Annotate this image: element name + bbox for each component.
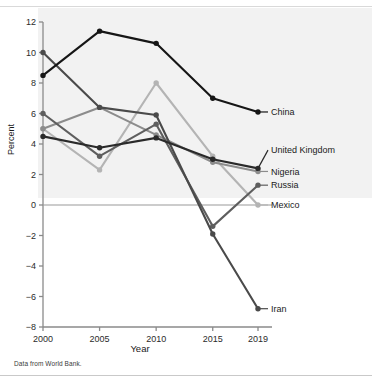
series-label-russia: Russia [258, 180, 299, 190]
y-tick-label: 8 [31, 78, 36, 88]
y-tick-label: −8 [26, 322, 36, 332]
series-label-iran: Iran [258, 304, 287, 314]
source-note: Data from World Bank. [14, 360, 82, 367]
y-tick-label: 2 [31, 170, 36, 180]
y-tick-label: −4 [26, 261, 36, 271]
y-axis-title: Percent [6, 124, 16, 155]
series-label-text: Iran [271, 304, 287, 314]
series-label-united-kingdom: United Kingdom [258, 145, 335, 168]
series-label-text: United Kingdom [271, 145, 335, 155]
tick-labels-layer: −8−6−4−202468101220002005201020152019 [26, 17, 268, 344]
series-mexico [40, 80, 260, 207]
series-label-mexico: Mexico [258, 200, 300, 210]
chart-svg: MexicoNigeriaRussiaIranUnited KingdomChi… [0, 0, 372, 382]
axes-layer [39, 22, 272, 331]
series-iran [40, 50, 260, 312]
series-label-text: Russia [271, 180, 299, 190]
series-labels-layer: MexicoNigeriaRussiaIranUnited KingdomChi… [258, 107, 335, 314]
series-label-text: China [271, 107, 295, 117]
series-russia [40, 111, 260, 229]
y-tick-label: −2 [26, 231, 36, 241]
figure-page: MexicoNigeriaRussiaIranUnited KingdomChi… [0, 0, 372, 382]
y-tick-label: 0 [31, 200, 36, 210]
series-label-text: Nigeria [271, 167, 300, 177]
y-tick-label: −6 [26, 292, 36, 302]
y-tick-label: 6 [31, 109, 36, 119]
y-tick-label: 4 [31, 139, 36, 149]
y-tick-label: 10 [26, 48, 36, 58]
series-label-nigeria: Nigeria [258, 167, 300, 177]
x-axis-title: Year [0, 343, 280, 354]
line-chart-figure: MexicoNigeriaRussiaIranUnited KingdomChi… [0, 0, 372, 382]
series-china [40, 28, 260, 114]
series-label-text: Mexico [271, 200, 300, 210]
y-tick-label: 12 [26, 17, 36, 27]
series-label-china: China [258, 107, 295, 117]
series-layer [40, 28, 260, 311]
